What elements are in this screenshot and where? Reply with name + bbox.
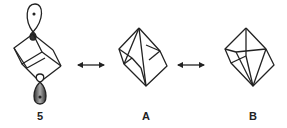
p-orbital-bottom-small-lobe	[36, 74, 44, 82]
structure-label-b: B	[249, 110, 257, 122]
structure-label-a: A	[142, 110, 150, 122]
structure-5	[14, 4, 61, 104]
structure-a	[119, 28, 167, 86]
p-orbital-top-lobe	[27, 4, 41, 32]
resonance-diagram	[0, 0, 287, 128]
structure-b	[225, 28, 274, 86]
p-orbital-bottom-lobe	[34, 82, 46, 104]
structure-label-5: 5	[37, 110, 43, 122]
